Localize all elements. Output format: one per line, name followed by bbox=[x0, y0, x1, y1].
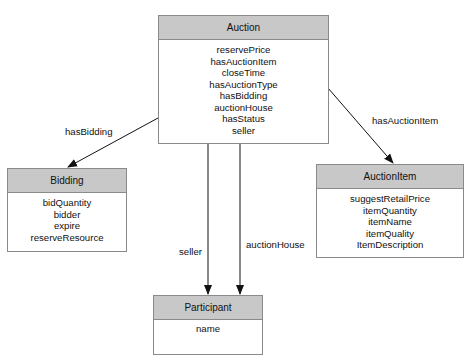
attribute: itemQuantity bbox=[317, 205, 463, 217]
attribute: auctionHouse bbox=[159, 102, 328, 114]
edge-label-auction-house: auctionHouse bbox=[246, 239, 305, 250]
class-bidding[interactable]: Bidding bidQuantity bidder expire reserv… bbox=[7, 168, 127, 252]
class-bidding-attributes: bidQuantity bidder expire reserveResourc… bbox=[8, 193, 126, 243]
class-participant[interactable]: Participant name bbox=[153, 295, 263, 355]
attribute: bidder bbox=[8, 209, 126, 221]
attribute: suggestRetailPrice bbox=[317, 193, 463, 205]
edge-label-has-bidding: hasBidding bbox=[65, 126, 112, 137]
attribute: hasAuctionItem bbox=[159, 56, 328, 68]
attribute: seller bbox=[159, 125, 328, 137]
class-auction-item[interactable]: AuctionItem suggestRetailPrice itemQuant… bbox=[316, 164, 464, 258]
attribute: reserveResource bbox=[8, 232, 126, 244]
attribute: itemName bbox=[317, 216, 463, 228]
attribute: name bbox=[154, 323, 262, 335]
class-auction-title: Auction bbox=[159, 16, 328, 40]
class-auction[interactable]: Auction reservePrice hasAuctionItem clos… bbox=[158, 15, 329, 144]
edge-label-has-auction-item: hasAuctionItem bbox=[372, 115, 438, 126]
attribute: hasStatus bbox=[159, 113, 328, 125]
edge-label-seller: seller bbox=[179, 246, 202, 257]
attribute: bidQuantity bbox=[8, 197, 126, 209]
class-auction-item-title: AuctionItem bbox=[317, 165, 463, 189]
attribute: closeTime bbox=[159, 67, 328, 79]
class-participant-attributes: name bbox=[154, 320, 262, 335]
class-auction-attributes: reservePrice hasAuctionItem closeTime ha… bbox=[159, 40, 328, 136]
class-auction-item-attributes: suggestRetailPrice itemQuantity itemName… bbox=[317, 189, 463, 251]
attribute: hasBidding bbox=[159, 90, 328, 102]
attribute: ItemDescription bbox=[317, 239, 463, 251]
class-participant-title: Participant bbox=[154, 296, 262, 320]
class-bidding-title: Bidding bbox=[8, 169, 126, 193]
attribute: expire bbox=[8, 220, 126, 232]
attribute: reservePrice bbox=[159, 44, 328, 56]
attribute: hasAuctionType bbox=[159, 79, 328, 91]
attribute: itemQuality bbox=[317, 228, 463, 240]
